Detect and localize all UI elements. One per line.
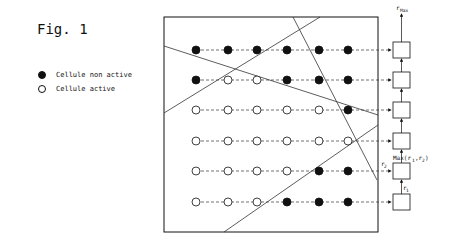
max-box — [393, 194, 410, 210]
max-box — [393, 133, 410, 149]
max-boxes — [393, 14, 410, 210]
cell-rows — [192, 46, 391, 206]
max-box — [393, 102, 410, 118]
cell-non-active — [192, 46, 200, 54]
cell-active — [192, 137, 200, 145]
cell-active — [192, 198, 200, 206]
cell-active — [253, 137, 261, 145]
cell-active — [253, 106, 261, 114]
max-box — [393, 42, 410, 58]
cell-non-active — [224, 46, 232, 54]
svg-text:2: 2 — [384, 164, 387, 169]
cell-non-active — [315, 76, 323, 84]
cell-non-active — [344, 76, 352, 84]
cell-active — [315, 106, 323, 114]
cell-non-active — [283, 76, 291, 84]
cell-active — [253, 198, 261, 206]
cell-non-active — [253, 46, 261, 54]
diagram: r Max Max(r 1 ,r 2 ) r 2 r 1 — [0, 0, 450, 241]
svg-text:1: 1 — [406, 188, 409, 193]
cell-active — [224, 198, 232, 206]
cell-non-active — [344, 198, 352, 206]
cell-non-active — [344, 46, 352, 54]
cell-non-active — [283, 46, 291, 54]
cell-non-active — [344, 167, 352, 175]
cell-non-active — [315, 46, 323, 54]
max-box — [393, 163, 410, 179]
cell-active — [344, 137, 352, 145]
cell-active — [224, 167, 232, 175]
cell-active — [315, 137, 323, 145]
cell-non-active — [315, 167, 323, 175]
cell-non-active — [192, 76, 200, 84]
cell-active — [283, 137, 291, 145]
cell-non-active — [344, 106, 352, 114]
cell-active — [192, 167, 200, 175]
cell-active — [253, 167, 261, 175]
cell-active — [192, 106, 200, 114]
cell-active — [224, 76, 232, 84]
label-max-r1-r2: Max(r — [393, 154, 411, 161]
cell-active — [224, 106, 232, 114]
cell-non-active — [315, 198, 323, 206]
cell-active — [283, 106, 291, 114]
cell-active — [283, 167, 291, 175]
cell-active — [253, 76, 261, 84]
max-box — [393, 72, 410, 88]
svg-text:Max: Max — [400, 8, 408, 13]
cell-active — [224, 137, 232, 145]
cell-non-active — [283, 198, 291, 206]
svg-text:): ) — [425, 154, 429, 161]
